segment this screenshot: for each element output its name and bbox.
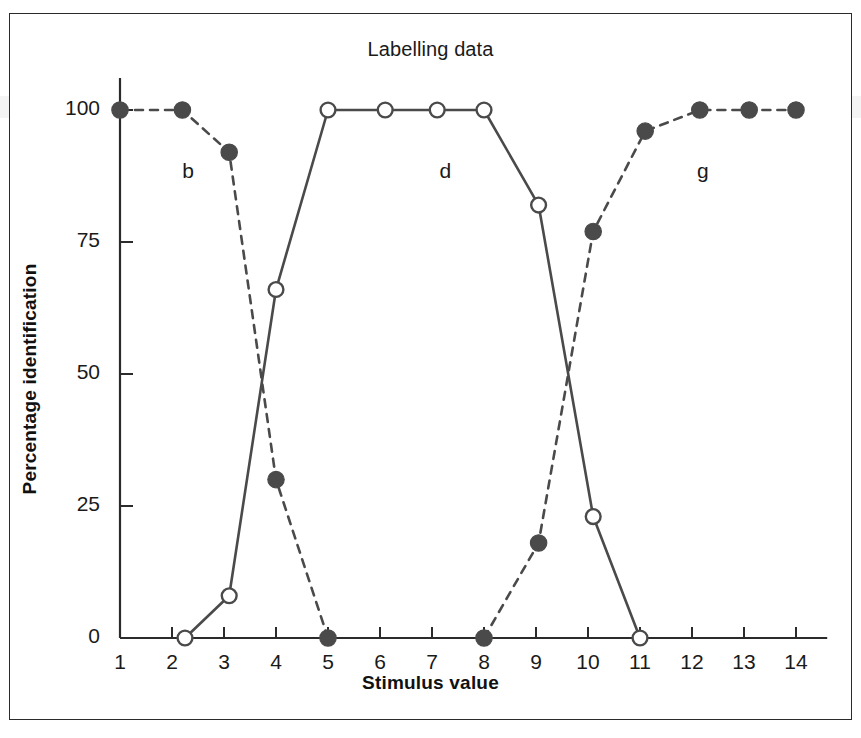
data-point-d-1-3: [321, 103, 336, 118]
x-tick-label-1: 1: [95, 650, 145, 674]
y-tick-label-0: 0: [24, 624, 100, 648]
data-point-g-1-3: [637, 123, 653, 139]
x-tick-label-4: 4: [251, 650, 301, 674]
data-point-d-1-9: [633, 631, 648, 646]
x-tick-label-7: 7: [407, 650, 457, 674]
x-tick-label-5: 5: [303, 650, 353, 674]
x-tick-label-11: 11: [615, 650, 665, 674]
data-point-g-1-0: [476, 630, 492, 646]
data-point-g-1-2: [585, 223, 601, 239]
x-tick-label-10: 10: [563, 650, 613, 674]
x-tick-label-3: 3: [199, 650, 249, 674]
x-tick-label-14: 14: [771, 650, 821, 674]
series-annotation-d: d: [440, 159, 452, 183]
x-axis-title: Stimulus value: [0, 672, 861, 694]
y-axis-title: Percentage identification: [19, 169, 41, 589]
data-point-b-1-2: [221, 144, 237, 160]
x-tick-label-8: 8: [459, 650, 509, 674]
x-tick-label-2: 2: [147, 650, 197, 674]
data-point-b-1-0: [112, 102, 128, 118]
data-point-d-1-6: [477, 103, 492, 118]
plot-area: [0, 0, 861, 738]
series-annotation-b: b: [182, 159, 194, 183]
x-tick-label-13: 13: [719, 650, 769, 674]
y-tick-label-100: 100: [24, 96, 100, 120]
series-line-b: [120, 110, 328, 638]
data-point-g-1-1: [530, 535, 546, 551]
x-tick-label-9: 9: [511, 650, 561, 674]
data-point-g-1-5: [741, 102, 757, 118]
x-tick-label-6: 6: [355, 650, 405, 674]
data-point-d-1-8: [586, 509, 601, 524]
data-point-d-1-1: [222, 588, 237, 603]
data-point-d-1-7: [531, 198, 546, 213]
x-tick-label-12: 12: [667, 650, 717, 674]
data-point-b-1-1: [174, 102, 190, 118]
data-point-b-1-4: [320, 630, 336, 646]
data-point-b-1-3: [268, 471, 284, 487]
axes-group: [120, 78, 827, 638]
data-point-d-1-4: [378, 103, 393, 118]
data-point-d-1-5: [430, 103, 445, 118]
data-point-d-1-0: [178, 631, 193, 646]
figure-container: Labelling data 0255075100 12345678910111…: [0, 0, 861, 738]
data-point-g-1-6: [788, 102, 804, 118]
series-group: [112, 102, 804, 646]
series-line-d: [185, 110, 640, 638]
data-point-d-1-2: [269, 282, 284, 297]
data-point-g-1-4: [692, 102, 708, 118]
series-annotation-g: g: [697, 159, 709, 183]
